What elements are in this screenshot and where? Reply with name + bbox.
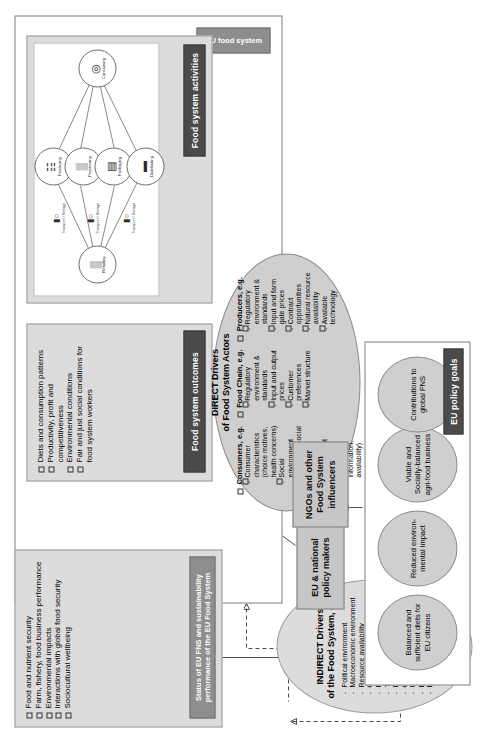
group-item: Available technology [320,270,337,331]
actor-box-policy-makers: EU & national policy makers [296,525,344,609]
status-item: Farm, fishery, food business performance [33,558,43,718]
group-item: Regulatory environment & standards [243,270,269,331]
direct-drivers-title-2: of Food System Actors [220,270,231,494]
transport-icon: ▮○ [86,213,94,222]
status-panel: Food and nutrient security Farm, fishery… [14,549,222,727]
activity-connector-label: Transport / Storage [131,202,135,233]
policy-goal-label: Viable and Socially-balanced agri-food b… [403,427,431,501]
farm-icon: ☷ [45,161,56,171]
truck-icon: ▬ [137,161,148,172]
indirect-drivers-title-1: INDIRECT Drivers [314,594,325,698]
diagram-canvas: EU food system Food and nutrient securit… [0,0,485,743]
transport-icon: ▮○ [52,213,60,222]
activity-connector-label: Transport / Storage [95,202,99,233]
group-item: Consumer characteristics (choice motives… [243,423,277,484]
direct-drivers-group-food-chain: Food Chain, e.g. Regulatory environment … [234,347,363,418]
group-item: Input and farm gate prices [269,270,286,331]
activity-node-label: Processing [87,156,91,177]
direct-drivers-group-producers: Producers, e.g. Regulatory environment &… [234,270,363,341]
activity-node-distributing: ▬ Distributing [126,147,164,185]
activity-node-label: Retailing [101,256,105,272]
activity-node-label: Packaging [117,156,121,176]
group-item: Natural resource availability [303,270,320,331]
factory-icon: ▒ [75,162,86,170]
group-item: Contract opportunities [286,270,303,331]
policy-goal-label: Contributions to global FNS [408,357,427,431]
status-item: Sociocultural wellbeing [62,558,72,718]
outcomes-list: Diets and consumption patterns Productiv… [35,332,94,472]
outcome-item: Fair and just social conditions for food… [74,332,94,472]
policy-goal-reduced-impact: Reduced environ-mental impact [377,510,457,586]
plate-icon: ◎ [89,63,100,73]
activities-panel: ☷ Producing ▒ Processing ▤ Packaging ▬ D… [26,35,212,303]
status-item: Food and nutrient security [23,558,33,718]
actor-box-ngos: NGOs and other Food System influencers [292,441,348,527]
activity-connector-label: Transport / Storage [61,202,65,233]
transport-icon: ▮○ [122,213,130,222]
policy-goal-label: Balanced and sufficient diets for EU cit… [403,595,431,669]
outcomes-panel-tab: Food system outcomes [183,330,205,472]
activity-node-retailing: ▒ Retailing [78,245,116,283]
activity-node-label: Distributing [149,156,153,177]
policy-goal-balanced-diets: Balanced and sufficient diets for EU cit… [377,594,457,670]
policy-goals-frame: Balanced and sufficient diets for EU cit… [364,341,470,685]
group-item: Input and output prices [269,347,286,408]
activities-panel-tab: Food system activities [183,44,205,156]
status-item: Environmental impacts [43,558,53,718]
status-list: Food and nutrient security Farm, fishery… [23,558,72,718]
activities-network: ☷ Producing ▒ Processing ▤ Packaging ▬ D… [33,42,159,296]
group-item: Customer preferences [286,347,303,408]
indirect-item: Macroeconomic environment [348,594,357,694]
policy-goals-tab: EU policy goals [443,348,463,434]
activity-node-label: Consuming [101,57,105,78]
activity-connector: ▮○ Transport / Storage [52,202,65,233]
outcome-item: Environmental conditions [64,332,74,472]
policy-goal-viable-business: Viable and Socially-balanced agri-food b… [377,426,457,502]
package-icon: ▤ [105,161,116,171]
outcome-item: Productivity, profit and competitiveness [45,332,65,472]
activity-node-consuming: ◎ Consuming [78,49,116,87]
status-item: Interactions with global food security [52,558,62,718]
policy-goal-label: Reduced environ-mental impact [408,511,427,585]
activity-connector: ▮○ Transport / Storage [122,202,135,233]
direct-drivers-title-1: DIRECT Drivers [209,270,220,494]
group-item: Market structure [303,347,312,408]
outcome-item: Diets and consumption patterns [35,332,45,472]
activity-connector: ▮○ Transport / Storage [86,202,99,233]
status-panel-tab: Status of EU FNS and sustainability perf… [189,556,215,718]
activity-node-label: Producing [57,157,61,176]
outcomes-panel: Diets and consumption patterns Productiv… [26,323,212,481]
shop-icon: ▒ [89,260,100,268]
group-item: Regulatory environment & standards [243,347,269,408]
indirect-drivers-title-2: of the Food System, e.g. [325,594,336,698]
